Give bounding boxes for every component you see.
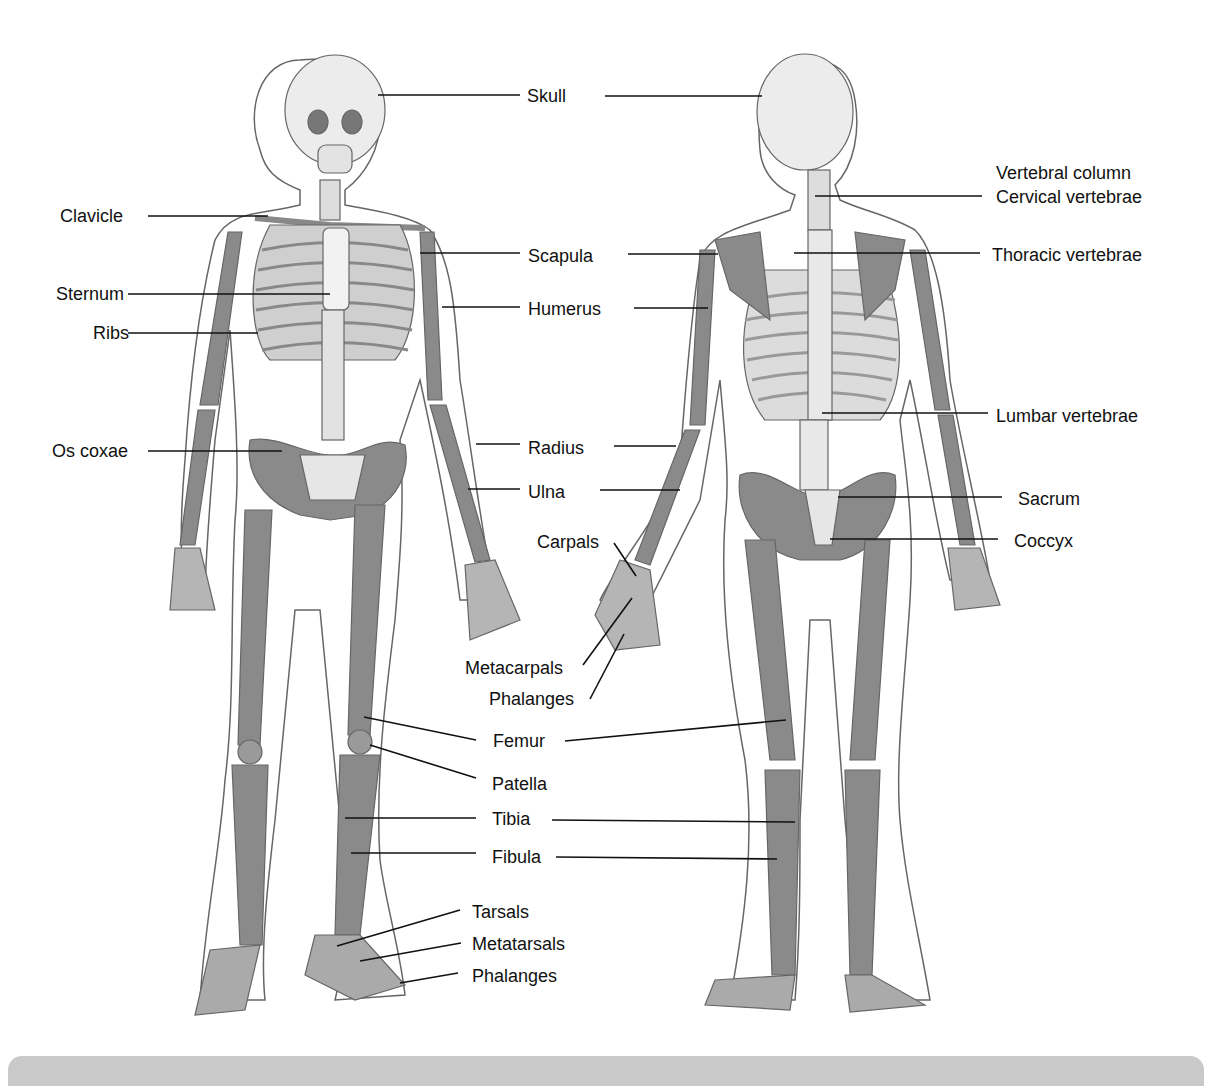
posterior-right-humerus xyxy=(910,250,950,410)
posterior-left-femur xyxy=(745,540,795,760)
label-lumbar-vertebrae: Lumbar vertebrae xyxy=(996,406,1138,426)
label-metatarsals: Metatarsals xyxy=(472,934,565,954)
label-metacarpals: Metacarpals xyxy=(465,658,563,678)
label-phalanges-hand: Phalanges xyxy=(489,689,574,709)
label-fibula: Fibula xyxy=(492,847,541,867)
posterior-right-femur xyxy=(850,540,890,760)
label-skull: Skull xyxy=(527,86,566,106)
anterior-sternum xyxy=(323,228,349,310)
label-phalanges-foot: Phalanges xyxy=(472,966,557,986)
posterior-left-scapula xyxy=(715,232,770,320)
anterior-lumbar-spine xyxy=(322,310,344,440)
anterior-right-femur xyxy=(348,505,385,735)
label-clavicle: Clavicle xyxy=(60,206,123,226)
label-tarsals: Tarsals xyxy=(472,902,529,922)
label-femur: Femur xyxy=(493,731,545,751)
posterior-right-foot xyxy=(845,975,925,1012)
label-tibia: Tibia xyxy=(492,809,530,829)
anterior-left-tibia xyxy=(232,765,268,945)
anterior-cervical xyxy=(320,180,340,220)
label-scapula: Scapula xyxy=(528,246,593,266)
label-vertebral-column: Vertebral column xyxy=(996,163,1131,183)
posterior-right-hand xyxy=(948,548,1000,610)
anterior-right-tibia xyxy=(335,755,380,935)
posterior-cervical xyxy=(808,170,830,230)
bottom-bar xyxy=(8,1056,1204,1086)
posterior-lumbar-spine xyxy=(800,420,828,490)
anterior-left-hand xyxy=(170,548,215,610)
posterior-thoracic-spine xyxy=(808,230,832,420)
label-carpals: Carpals xyxy=(537,532,599,552)
anterior-right-forearm xyxy=(430,405,490,562)
anterior-left-femur xyxy=(238,510,272,745)
label-coccyx: Coccyx xyxy=(1014,531,1073,551)
label-ulna: Ulna xyxy=(528,482,565,502)
label-radius: Radius xyxy=(528,438,584,458)
anterior-patella xyxy=(348,730,372,754)
posterior-left-humerus xyxy=(690,250,715,425)
anterior-right-foot xyxy=(305,935,405,1000)
posterior-right-tibia xyxy=(845,770,880,975)
label-cervical-vertebrae: Cervical vertebrae xyxy=(996,187,1142,207)
label-ribs: Ribs xyxy=(93,323,129,343)
posterior-left-forearm xyxy=(635,430,700,565)
anterior-left-humerus xyxy=(200,232,242,405)
label-patella: Patella xyxy=(492,774,547,794)
posterior-left-tibia xyxy=(765,770,800,975)
label-thoracic-vertebrae: Thoracic vertebrae xyxy=(992,245,1142,265)
label-sternum: Sternum xyxy=(56,284,124,304)
label-os-coxae: Os coxae xyxy=(52,441,128,461)
anterior-right-hand xyxy=(465,560,520,640)
anterior-left-forearm xyxy=(180,410,215,545)
posterior-left-foot xyxy=(705,975,795,1010)
label-sacrum: Sacrum xyxy=(1018,489,1080,509)
anterior-right-humerus xyxy=(420,232,442,400)
posterior-skull xyxy=(757,54,853,170)
label-humerus: Humerus xyxy=(528,299,601,319)
